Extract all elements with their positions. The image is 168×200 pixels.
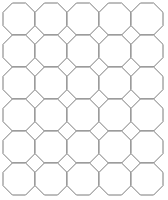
octagon-tile <box>3 131 35 163</box>
octagon-tile <box>131 163 163 195</box>
octagon-tile <box>131 3 163 35</box>
octagon-tile <box>67 163 99 195</box>
octagon-tile <box>99 3 131 35</box>
octagon-tile <box>3 3 35 35</box>
octagon-tile <box>3 35 35 67</box>
octagon-tile <box>67 67 99 99</box>
octagon-tile <box>131 35 163 67</box>
octagon-tile <box>131 67 163 99</box>
octagon-tile <box>35 67 67 99</box>
octagon-tile <box>99 67 131 99</box>
octagon-tile <box>99 131 131 163</box>
octagon-tile <box>131 99 163 131</box>
octagon-tile <box>67 3 99 35</box>
octagon-tile <box>3 163 35 195</box>
octagon-tiling-diagram <box>0 0 168 200</box>
octagon-tile <box>67 35 99 67</box>
octagon-tile <box>3 67 35 99</box>
octagon-tile <box>35 131 67 163</box>
tiling-svg <box>0 0 168 200</box>
octagon-tile <box>67 99 99 131</box>
octagon-tile <box>35 99 67 131</box>
octagon-tile <box>99 163 131 195</box>
octagon-tile <box>99 35 131 67</box>
octagon-tile <box>3 99 35 131</box>
octagon-tile <box>35 35 67 67</box>
octagon-tile <box>131 131 163 163</box>
octagon-tile <box>35 3 67 35</box>
octagon-tile <box>67 131 99 163</box>
octagon-tile <box>99 99 131 131</box>
octagon-tile <box>35 163 67 195</box>
